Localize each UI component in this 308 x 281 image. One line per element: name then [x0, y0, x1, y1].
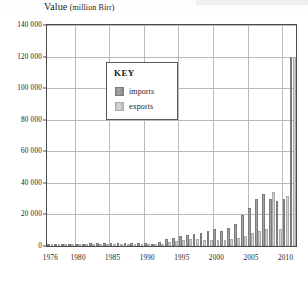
x-axis-tick-label: 2010 [278, 254, 293, 262]
bar-exports-1989 [141, 244, 144, 246]
legend-label-imports: imports [129, 87, 154, 96]
x-axis-tick-label: 1985 [105, 254, 120, 262]
legend-swatch-exports [115, 102, 124, 111]
legend: KEY imports exports [106, 62, 178, 120]
bar-exports-1991 [154, 244, 157, 246]
bar-exports-1995 [182, 240, 185, 246]
bar-exports-1979 [71, 244, 74, 246]
y-axis-tick-label: 60 000 [21, 147, 42, 155]
bar-exports-1992 [161, 244, 164, 246]
legend-swatch-imports [115, 87, 124, 96]
bar-exports-1985 [113, 244, 116, 246]
chart-title-unit: (million Birr) [70, 3, 115, 12]
x-axis-tick-label: 1980 [71, 254, 86, 262]
legend-label-exports: exports [129, 102, 153, 111]
bar-exports-2002 [230, 239, 233, 246]
scan-artifact [196, 0, 308, 5]
bar-exports-2004 [244, 236, 247, 246]
y-axis: 020 00040 00060 00080 000100 000120 0001… [0, 0, 46, 281]
y-axis-tick-label: 20 000 [21, 210, 42, 218]
bar-exports-1980 [78, 244, 81, 246]
y-axis-tick-label: 0 [38, 242, 42, 250]
y-axis-tick-label: 140 000 [17, 21, 42, 29]
bars-layer [47, 25, 296, 246]
x-axis: 19761980198519901995200020052010 [0, 250, 308, 270]
bar-exports-1983 [99, 244, 102, 246]
legend-title: KEY [114, 68, 135, 78]
bar-exports-1993 [168, 242, 171, 246]
y-axis-tick-label: 40 000 [21, 179, 42, 187]
bar-exports-2006 [258, 231, 261, 246]
bar-exports-2011 [293, 57, 296, 246]
bar-exports-1994 [175, 241, 178, 246]
bar-exports-1982 [92, 244, 95, 246]
bar-exports-2000 [217, 240, 220, 246]
y-axis-tick-label: 120 000 [17, 53, 42, 61]
bar-exports-1999 [210, 240, 213, 246]
bar-exports-2001 [224, 240, 227, 246]
bar-exports-1990 [147, 244, 150, 246]
x-axis-tick-label: 2000 [209, 254, 224, 262]
x-axis-tick-label: 1976 [43, 254, 58, 262]
legend-item-exports: exports [115, 102, 153, 111]
y-axis-tick-label: 100 000 [17, 84, 42, 92]
bar-exports-2008 [272, 192, 275, 246]
bar-exports-1976 [51, 244, 54, 246]
bar-exports-1987 [127, 244, 130, 246]
bar-exports-1996 [189, 239, 192, 246]
bar-exports-1998 [203, 240, 206, 246]
chart-title-main: Value [44, 1, 67, 12]
page-title: Value (million Birr) [44, 1, 115, 12]
bar-exports-2010 [286, 196, 289, 247]
x-axis-tick-label: 1995 [174, 254, 189, 262]
bar-exports-2003 [237, 238, 240, 246]
legend-item-imports: imports [115, 87, 154, 96]
plot-area: KEY imports exports [46, 24, 297, 247]
bar-exports-1978 [64, 244, 67, 246]
bar-exports-2009 [279, 229, 282, 246]
bar-exports-1988 [134, 244, 137, 246]
bar-exports-1984 [106, 244, 109, 246]
bar-exports-1986 [120, 244, 123, 246]
bar-exports-1997 [196, 239, 199, 246]
bar-exports-1977 [58, 244, 61, 246]
x-axis-tick-label: 1990 [140, 254, 155, 262]
x-axis-tick-label: 2005 [243, 254, 258, 262]
y-axis-tick-label: 80 000 [21, 116, 42, 124]
bar-exports-2007 [265, 229, 268, 246]
bar-exports-2005 [251, 233, 254, 246]
bar-exports-1981 [85, 244, 88, 246]
